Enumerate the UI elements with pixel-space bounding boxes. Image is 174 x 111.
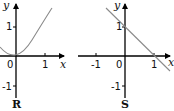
x-axis-label: x	[168, 56, 174, 69]
origin-label: 0	[7, 59, 13, 70]
graphs-figure: y x 1 -1 0 1 R y x 1 -1 0 -1 1 S	[0, 0, 174, 111]
x-tick-label-1: 1	[42, 59, 48, 70]
origin-label: 0	[116, 59, 122, 70]
graph-name: S	[121, 98, 129, 111]
y-tick-label-1: 1	[6, 21, 12, 32]
graph-name: R	[12, 98, 22, 111]
graph-s: y x 1 -1 0 -1 1 S	[78, 0, 174, 111]
y-tick-label-neg1: -1	[2, 81, 12, 92]
x-tick-label-neg1: -1	[91, 59, 101, 70]
graph-r: y x 1 -1 0 1 R	[0, 0, 67, 111]
y-tick-label-neg1: -1	[111, 81, 121, 92]
x-tick-label-1: 1	[151, 59, 157, 70]
y-axis-label: y	[113, 0, 121, 12]
x-axis-label: x	[60, 58, 67, 71]
y-tick-label-1: 1	[116, 21, 122, 32]
y-axis-label: y	[2, 0, 10, 12]
